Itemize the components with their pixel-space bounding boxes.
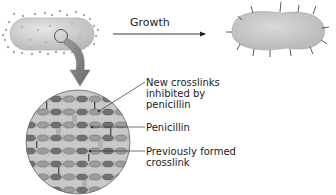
label-previous-crosslink: Previously formed crosslink — [146, 146, 236, 168]
growth-label: Growth — [130, 17, 170, 28]
bacterium-before — [2, 10, 99, 55]
growth-arrow — [113, 32, 206, 37]
bacterium-after — [226, 2, 329, 57]
label-penicillin: Penicillin — [146, 122, 190, 133]
label-line: Previously formed — [146, 146, 236, 157]
label-line: penicillin — [146, 99, 220, 110]
label-new-crosslinks: New crosslinks inhibited by penicillin — [146, 77, 220, 110]
label-line: crosslink — [146, 157, 236, 168]
label-line: inhibited by — [146, 88, 220, 99]
cell-wall-detail — [20, 88, 140, 195]
label-line: New crosslinks — [146, 77, 220, 88]
